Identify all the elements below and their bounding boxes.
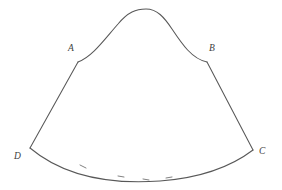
bottom-arc-d-to-c xyxy=(30,148,253,182)
geometric-figure-svg xyxy=(0,0,282,190)
vertex-label-c: C xyxy=(259,147,265,157)
top-curve-a-to-b xyxy=(78,9,207,62)
vertex-label-d: D xyxy=(14,152,21,162)
figure-canvas: A B C D xyxy=(0,0,282,190)
arc-tick-mark-1 xyxy=(80,165,86,168)
vertex-label-b: B xyxy=(209,44,215,54)
right-side-b-to-c xyxy=(207,62,253,150)
vertex-label-a: A xyxy=(68,44,74,54)
arc-tick-mark-3 xyxy=(143,179,149,180)
arc-tick-mark-4 xyxy=(166,177,172,178)
left-side-a-to-d xyxy=(30,62,78,148)
arc-tick-mark-2 xyxy=(118,176,124,177)
